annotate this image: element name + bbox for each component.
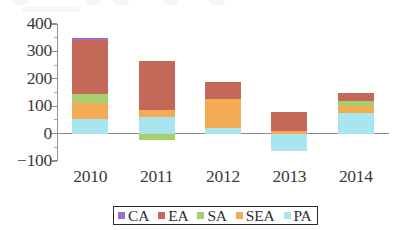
- y-axis-tick-label: 300: [27, 40, 52, 61]
- artifact-smear: [22, 7, 80, 12]
- legend-item-EA[interactable]: EA: [158, 208, 188, 224]
- chart-legend: CAEASASEAPA: [113, 206, 318, 225]
- bar-segment-SEA-2012: [205, 99, 241, 128]
- bar-group-2010: [72, 24, 108, 161]
- y-axis-minor-tick: [54, 147, 58, 148]
- y-axis-tick: [52, 106, 57, 107]
- stacked-bar-chart: 4003002001000−100 20102011201220132014 C…: [0, 0, 399, 230]
- y-axis-tick: [52, 51, 57, 52]
- bar-segment-PA-2010: [72, 119, 108, 134]
- legend-swatch-SEA-icon: [236, 212, 243, 219]
- x-axis-tick-label-2012: 2012: [193, 166, 253, 187]
- y-axis-tick: [52, 78, 57, 79]
- artifact-blob: [162, 0, 178, 6]
- artifact-blob: [86, 0, 102, 6]
- x-axis-tick-label-2011: 2011: [127, 166, 187, 187]
- y-axis-tick-label: 0: [44, 123, 52, 144]
- bar-segment-SA-2010: [72, 94, 108, 104]
- artifact-blob: [209, 0, 225, 6]
- bar-segment-SEA-2013: [271, 131, 307, 134]
- y-axis-tick: [52, 133, 57, 134]
- legend-label: SEA: [246, 208, 275, 224]
- y-axis-tick-label: 400: [27, 13, 52, 34]
- bar-segment-EA-2014: [338, 93, 374, 101]
- artifact-blob: [12, 0, 28, 6]
- bar-segment-PA-2011: [139, 117, 175, 133]
- bar-segment-SEA-2014: [338, 106, 374, 113]
- bar-group-2012: [205, 24, 241, 161]
- y-axis-minor-tick: [54, 37, 58, 38]
- y-axis-tick-label: 100: [27, 95, 52, 116]
- legend-swatch-SA-icon: [197, 212, 204, 219]
- x-axis-tick-label-2013: 2013: [259, 166, 319, 187]
- artifact-blob: [113, 0, 129, 6]
- bar-segment-EA-2010: [72, 40, 108, 93]
- legend-label: PA: [294, 208, 312, 224]
- x-axis-tick-label-2010: 2010: [60, 166, 120, 187]
- y-axis-tick-label: −100: [17, 150, 52, 171]
- y-axis-tick-label: 200: [27, 68, 52, 89]
- legend-item-CA[interactable]: CA: [118, 208, 149, 224]
- legend-item-SEA[interactable]: SEA: [236, 208, 275, 224]
- bar-segment-EA-2012: [205, 82, 241, 100]
- y-axis-minor-tick: [54, 65, 58, 66]
- bar-segment-EA-2011: [139, 61, 175, 110]
- plot-area: [57, 24, 389, 161]
- y-axis-tick: [52, 160, 57, 161]
- y-axis-minor-tick: [54, 92, 58, 93]
- y-axis-tick: [52, 23, 57, 24]
- legend-swatch-EA-icon: [158, 212, 165, 219]
- bar-group-2014: [338, 24, 374, 161]
- y-axis-minor-tick: [54, 119, 58, 120]
- y-axis-tick-labels: 4003002001000−100: [0, 24, 52, 161]
- bar-group-2011: [139, 24, 175, 161]
- legend-item-SA[interactable]: SA: [197, 208, 226, 224]
- legend-label: EA: [168, 208, 188, 224]
- x-axis-tick-label-2014: 2014: [326, 166, 386, 187]
- bar-segment-SA-2011: [139, 134, 175, 140]
- cropped-top-artifacts: [0, 0, 399, 13]
- bar-segment-PA-2013: [271, 134, 307, 152]
- y-axis-line: [57, 24, 58, 161]
- legend-swatch-CA-icon: [118, 212, 125, 219]
- bar-segment-SEA-2010: [72, 103, 108, 118]
- legend-item-PA[interactable]: PA: [284, 208, 312, 224]
- bar-group-2013: [271, 24, 307, 161]
- bar-segment-EA-2013: [271, 112, 307, 131]
- bar-segment-SEA-2011: [139, 110, 175, 117]
- bar-segment-PA-2014: [338, 113, 374, 134]
- bar-segment-CA-2010: [72, 38, 108, 40]
- legend-label: SA: [207, 208, 226, 224]
- legend-swatch-PA-icon: [284, 212, 291, 219]
- bar-segment-PA-2012: [205, 128, 241, 133]
- legend-label: CA: [128, 208, 149, 224]
- bar-segment-SA-2014: [338, 101, 374, 106]
